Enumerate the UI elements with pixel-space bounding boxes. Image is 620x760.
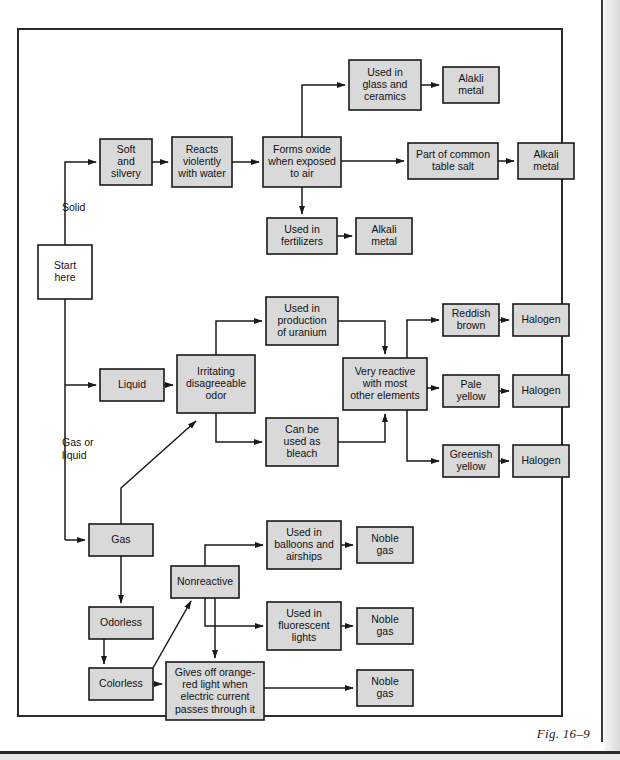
node-label-halogen-2: Halogen xyxy=(521,384,560,396)
node-label-nonreactive: Nonreactive xyxy=(177,575,233,587)
node-label-reddish-brown: Reddish xyxy=(452,307,491,319)
node-start-here: Starthere xyxy=(38,245,92,299)
node-label-gives-off-orange-red: red light when xyxy=(182,678,248,690)
node-label-can-be-bleach: Can be xyxy=(285,423,319,435)
node-liquid: Liquid xyxy=(100,369,164,401)
node-label-used-fertilizers: fertilizers xyxy=(281,235,323,247)
node-used-glass-ceramics: Used inglass andceramics xyxy=(349,60,421,110)
node-label-used-uranium: of uranium xyxy=(277,326,327,338)
node-reddish-brown: Reddishbrown xyxy=(443,304,499,336)
edge-nonreactive-to-balloons xyxy=(205,545,263,566)
node-gives-off-orange-red: Gives off orange-red light whenelectric … xyxy=(166,662,264,720)
node-used-balloons: Used inballoons andairships xyxy=(267,521,341,569)
node-label-gives-off-orange-red: electric current xyxy=(181,690,250,702)
node-label-halogen-1: Halogen xyxy=(521,313,560,325)
node-noble-gas-1: Noblegas xyxy=(357,527,413,563)
node-label-alkali-metal-2: Alkali xyxy=(533,148,558,160)
node-label-pale-yellow: yellow xyxy=(456,390,486,402)
node-label-reacts-violently: violently xyxy=(183,155,222,167)
edge-label-gas-or-liquid-line2: liquid xyxy=(62,449,87,461)
node-label-soft-and-silvery: Soft xyxy=(117,143,136,155)
node-halogen-2: Halogen xyxy=(513,375,569,407)
edge-gascolumn-to-odor xyxy=(121,421,196,524)
node-label-odorless: Odorless xyxy=(100,616,142,628)
node-noble-gas-3: Noblegas xyxy=(357,670,413,706)
node-label-used-glass-ceramics: Used in xyxy=(367,66,403,78)
node-label-reacts-violently: with water xyxy=(177,167,226,179)
node-soft-and-silvery: Softandsilvery xyxy=(100,139,152,185)
page-edge-shadow xyxy=(602,0,620,760)
node-alakli-metal-1: Alaklimetal xyxy=(443,67,499,103)
node-halogen-3: Halogen xyxy=(513,445,569,477)
node-alkali-metal-3: Alkalimetal xyxy=(356,218,412,254)
node-nonreactive: Nonreactive xyxy=(171,566,239,598)
node-forms-oxide: Forms oxidewhen exposedto air xyxy=(263,137,341,187)
node-label-noble-gas-3: gas xyxy=(377,687,394,699)
node-label-alkali-metal-3: Alkali xyxy=(371,223,396,235)
node-label-used-fluorescent: Used in xyxy=(286,607,322,619)
node-label-irritating-odor: odor xyxy=(205,389,227,401)
node-label-soft-and-silvery: and xyxy=(117,155,135,167)
figure-page: Solid Gas or liquid StarthereSoftandsilv… xyxy=(0,0,620,760)
node-alkali-metal-2: Alkalimetal xyxy=(518,143,574,179)
edge-odor-to-uranium xyxy=(216,321,262,355)
node-noble-gas-2: Noblegas xyxy=(357,608,413,644)
node-label-alakli-metal-1: metal xyxy=(458,84,484,96)
node-label-used-uranium: production xyxy=(277,314,326,326)
edge-veryreactive-to-greenish xyxy=(407,410,439,461)
node-label-part-table-salt: table salt xyxy=(432,160,474,172)
node-label-pale-yellow: Pale xyxy=(460,378,481,390)
node-label-alakli-metal-1: Alakli xyxy=(458,72,483,84)
node-label-gives-off-orange-red: Gives off orange- xyxy=(175,666,256,678)
edge-label-solid: Solid xyxy=(62,201,86,213)
node-odorless: Odorless xyxy=(89,607,153,639)
flowchart-nodes: StarthereSoftandsilveryReactsviolentlywi… xyxy=(38,60,574,720)
node-label-noble-gas-3: Noble xyxy=(371,675,399,687)
node-very-reactive: Very reactivewith mostother elements xyxy=(343,358,427,410)
node-colorless: Colorless xyxy=(89,668,153,700)
node-irritating-odor: Irritatingdisagreeableodor xyxy=(177,355,255,413)
node-label-used-fluorescent: fluorescent xyxy=(278,619,329,631)
edge-colorless-to-nonreactive xyxy=(153,601,191,668)
edge-formsoxide-to-glass xyxy=(302,85,345,137)
node-label-gas: Gas xyxy=(111,533,130,545)
node-label-halogen-3: Halogen xyxy=(521,454,560,466)
edge-veryreactive-to-reddish xyxy=(407,320,439,358)
node-label-noble-gas-1: gas xyxy=(377,544,394,556)
node-label-alkali-metal-2: metal xyxy=(533,160,559,172)
node-gas: Gas xyxy=(89,524,153,556)
edge-uranium-to-veryreactive xyxy=(338,321,385,354)
node-part-table-salt: Part of commontable salt xyxy=(408,143,498,179)
node-label-start-here: here xyxy=(54,271,75,283)
node-label-start-here: Start xyxy=(54,259,76,271)
node-label-irritating-odor: disagreeable xyxy=(186,377,246,389)
node-can-be-bleach: Can beused asbleach xyxy=(266,418,338,466)
node-label-used-glass-ceramics: ceramics xyxy=(364,90,406,102)
node-label-irritating-odor: Irritating xyxy=(197,365,235,377)
edge-bleach-to-veryreactive xyxy=(338,414,385,442)
node-label-can-be-bleach: bleach xyxy=(287,447,318,459)
edge-nonreactive-to-fluorescent xyxy=(205,598,263,626)
flowchart-edge-labels: Solid Gas or liquid xyxy=(62,201,94,461)
node-greenish-yellow: Greenishyellow xyxy=(443,445,499,477)
node-label-liquid: Liquid xyxy=(118,378,146,390)
page-bottom-shadow xyxy=(0,754,620,760)
node-label-used-balloons: Used in xyxy=(286,526,322,538)
node-label-alkali-metal-3: metal xyxy=(371,235,397,247)
node-halogen-1: Halogen xyxy=(513,304,569,336)
node-label-very-reactive: Very reactive xyxy=(355,365,416,377)
figure-caption: Fig. 16–9 xyxy=(537,726,590,742)
node-used-fluorescent: Used influorescentlights xyxy=(267,602,341,650)
node-label-colorless: Colorless xyxy=(99,677,143,689)
node-label-used-balloons: airships xyxy=(286,550,322,562)
node-label-greenish-yellow: Greenish xyxy=(450,448,493,460)
node-label-reacts-violently: Reacts xyxy=(186,143,219,155)
node-label-reddish-brown: brown xyxy=(457,319,486,331)
node-used-fertilizers: Used infertilizers xyxy=(267,218,337,254)
node-label-used-glass-ceramics: glass and xyxy=(363,78,408,90)
node-label-noble-gas-2: gas xyxy=(377,625,394,637)
node-label-used-uranium: Used in xyxy=(284,302,320,314)
node-label-forms-oxide: to air xyxy=(290,167,314,179)
node-label-greenish-yellow: yellow xyxy=(456,460,486,472)
flowchart-canvas: Solid Gas or liquid StarthereSoftandsilv… xyxy=(0,0,620,760)
